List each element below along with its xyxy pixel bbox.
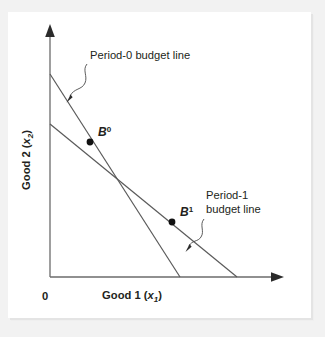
- period-1-annotation-label-line1: Period-1: [206, 189, 248, 201]
- period-0-annotation-group: Period-0 budget line: [67, 49, 191, 103]
- period-1-annotation-group: Period-1 budget line: [186, 189, 261, 252]
- budget-lines-group: [50, 74, 237, 277]
- x-axis-label: Good 1 (x1): [102, 289, 162, 304]
- y-axis-arrowhead: [45, 24, 55, 37]
- x-axis-arrowhead: [271, 272, 284, 282]
- bundle-b1-dot: [169, 219, 176, 226]
- origin-label: 0: [42, 290, 48, 302]
- bundle-points-group: B0 B1: [87, 125, 194, 225]
- period-0-annotation-label: Period-0 budget line: [90, 49, 190, 61]
- budget-line-plot: B0 B1 Period-0 budget line Period-1 budg…: [8, 12, 311, 318]
- period-0-leader-line: [70, 64, 87, 96]
- bundle-b0-label: B0: [98, 125, 112, 139]
- bundle-b1-label: B1: [180, 205, 194, 219]
- figure-root: B0 B1 Period-0 budget line Period-1 budg…: [0, 0, 325, 337]
- period-1-leader-line: [189, 219, 204, 246]
- period-1-annotation-label-line2: budget line: [206, 203, 261, 215]
- period-1-leader-arrowhead: [186, 244, 192, 252]
- period-0-budget-line: [50, 74, 180, 277]
- axes-group: [45, 24, 284, 282]
- y-axis-label: Good 2 (x2): [20, 130, 35, 190]
- period-0-leader-arrowhead: [67, 94, 73, 102]
- figure-card: B0 B1 Period-0 budget line Period-1 budg…: [8, 12, 311, 318]
- bundle-b0-dot: [87, 139, 94, 146]
